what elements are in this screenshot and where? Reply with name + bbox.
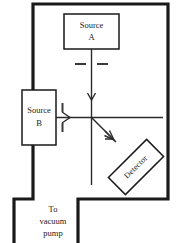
- pump-label-line3: pump: [43, 228, 62, 238]
- diagram-canvas: Source A Source B Detector To vacuum: [0, 0, 177, 243]
- source-a-label-line1: Source: [80, 20, 104, 30]
- pump-label-line1: To: [49, 204, 58, 214]
- detector-group[interactable]: Detector: [108, 139, 163, 194]
- pump-label-line2: vacuum: [40, 216, 67, 226]
- source-b-label-line2: B: [36, 118, 42, 128]
- source-a-label-line2: A: [88, 32, 95, 42]
- source-b-label-line1: Source: [27, 105, 51, 115]
